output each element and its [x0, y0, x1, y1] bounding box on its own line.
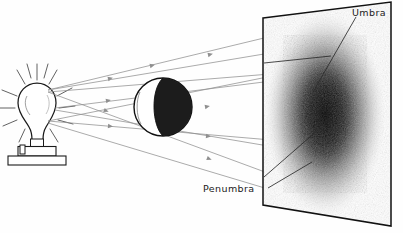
umbra-penumbra-diagram: Umbra Penumbra	[0, 0, 403, 233]
diagram-canvas: Umbra Penumbra	[0, 0, 403, 233]
ray-arrow-1	[107, 76, 113, 81]
sphere-dark-side	[154, 78, 192, 136]
ray-arrow-2	[207, 52, 213, 57]
umbra-region	[295, 58, 355, 170]
penumbra-label: Penumbra	[203, 183, 255, 194]
ray-arrow-9	[149, 63, 155, 68]
ray-arrow-4	[106, 98, 112, 103]
ray-arrow-3	[205, 104, 211, 109]
projection-screen-group	[263, 2, 391, 226]
ray-arrow-5	[108, 124, 113, 129]
umbra-label: Umbra	[352, 7, 386, 18]
light-bulb-group	[0, 64, 75, 165]
ray-arrow-8	[206, 156, 212, 162]
lamp-base-plinth	[8, 156, 66, 165]
opaque-sphere-group	[134, 78, 192, 136]
lamp-switch	[20, 145, 25, 154]
shadow-clip-group	[263, 10, 387, 218]
bulb-socket	[31, 139, 44, 147]
